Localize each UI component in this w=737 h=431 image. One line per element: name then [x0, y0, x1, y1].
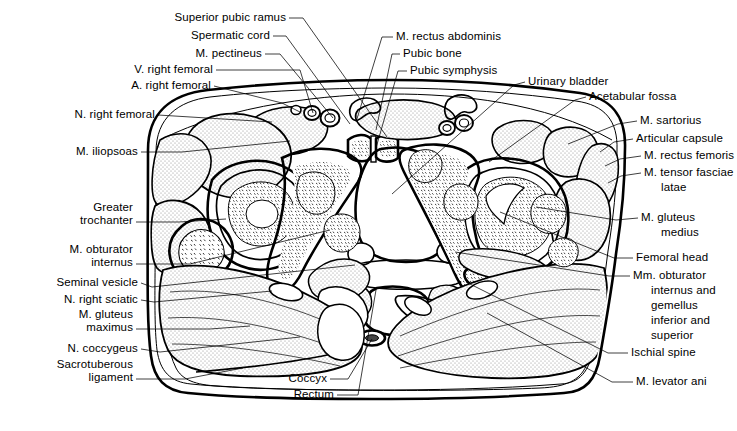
label-v-right-femoral: V. right femoral: [134, 63, 213, 76]
bone-fleck-e: [531, 194, 566, 233]
label-sacrotuberous-ligament: Sacrotuberous ligament: [57, 358, 133, 384]
label-coccyx: Coccyx: [289, 372, 327, 385]
label-m-tensor-fasciae-latae: M. tensor fasciae: [644, 166, 734, 179]
label-ischial-spine: Ischial spine: [631, 346, 696, 359]
label-mm-obturator-l4: inferior and: [651, 314, 710, 327]
label-m-gluteus-medius: M. gluteus: [641, 211, 695, 224]
label-pubic-symphysis: Pubic symphysis: [410, 64, 497, 77]
label-acetabular-fossa: Acetabular fossa: [589, 90, 677, 103]
label-m-rectus-femoris: M. rectus femoris: [644, 149, 734, 162]
label-n-coccygeus: N. coccygeus: [68, 342, 138, 355]
label-m-obturator-internus: M. obturator internus: [70, 243, 133, 269]
bone-fleck-f: [548, 238, 578, 267]
label-m-rectus-abdominis: M. rectus abdominis: [396, 30, 501, 43]
label-m-pectineus: M. pectineus: [195, 47, 262, 60]
label-m-iliopsoas: M. iliopsoas: [76, 145, 138, 158]
bone-fleck-c: [409, 150, 442, 183]
section-contents: [151, 94, 618, 378]
label-femoral-head: Femoral head: [636, 251, 708, 264]
label-seminal-vesicle: Seminal vesicle: [56, 276, 138, 289]
label-mm-obturator-internus-gemellus: Mm. obturator: [633, 269, 706, 282]
bone-fleck-b: [324, 214, 360, 252]
label-m-sartorius: M. sartorius: [640, 114, 701, 127]
anatomy-figure: Superior pubic ramusSpermatic cordM. pec…: [0, 0, 737, 431]
label-articular-capsule: Articular capsule: [636, 132, 723, 145]
label-mm-obturator-l3: gemellus: [651, 299, 698, 312]
label-pubic-bone: Pubic bone: [403, 47, 462, 60]
label-superior-pubic-ramus: Superior pubic ramus: [174, 11, 286, 24]
label-spermatic-cord: Spermatic cord: [191, 29, 270, 42]
label-n-right-femoral: N. right femoral: [75, 108, 155, 121]
label-m-levator-ani: M. levator ani: [636, 375, 707, 388]
ischiorectal-fossa: [318, 304, 365, 360]
bone-fleck-a: [297, 172, 335, 214]
label-urinary-bladder: Urinary bladder: [528, 75, 608, 88]
label-n-right-sciatic: N. right sciatic: [64, 293, 138, 306]
label-m-gluteus-maximus: M. gluteus maximus: [79, 308, 133, 334]
label-rectum: Rectum: [294, 388, 334, 401]
label-greater-trochanter: Greater trochanter: [80, 201, 133, 227]
bone-fleck-d: [444, 184, 478, 220]
label-a-right-femoral: A. right femoral: [131, 79, 211, 92]
label-mm-obturator-l5: superior: [651, 329, 693, 342]
left-lateral-muscle-strip: [152, 134, 211, 207]
label-mm-obturator-l2: internus and: [651, 284, 716, 297]
label-m-gluteus-medius-2: medius: [661, 226, 699, 239]
label-m-tensor-fasciae-latae-2: latae: [661, 181, 687, 194]
